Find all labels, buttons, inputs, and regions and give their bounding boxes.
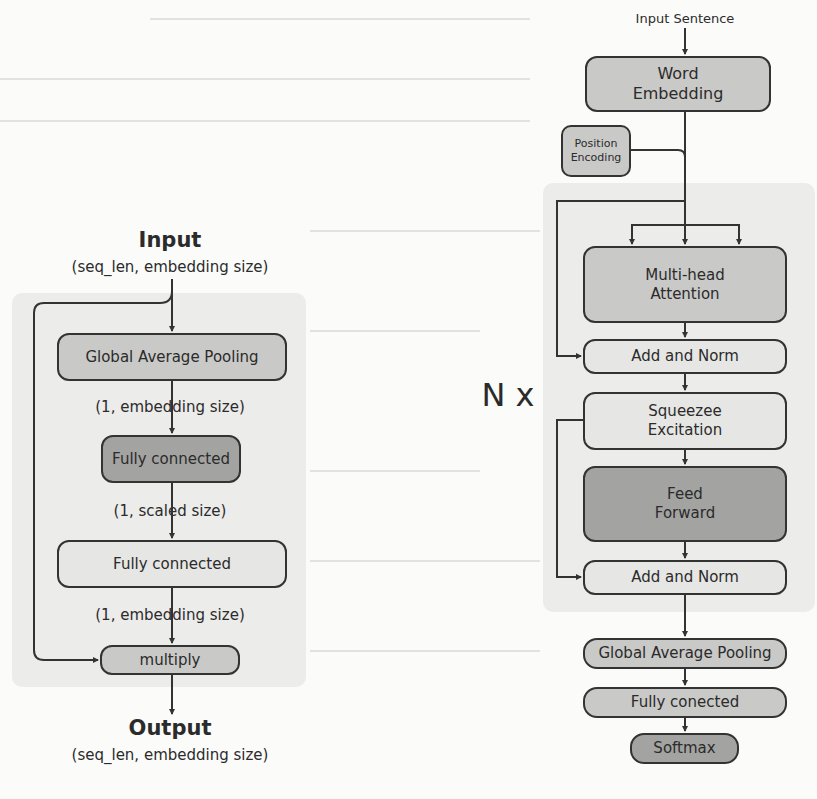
connector-arrows xyxy=(0,0,817,799)
